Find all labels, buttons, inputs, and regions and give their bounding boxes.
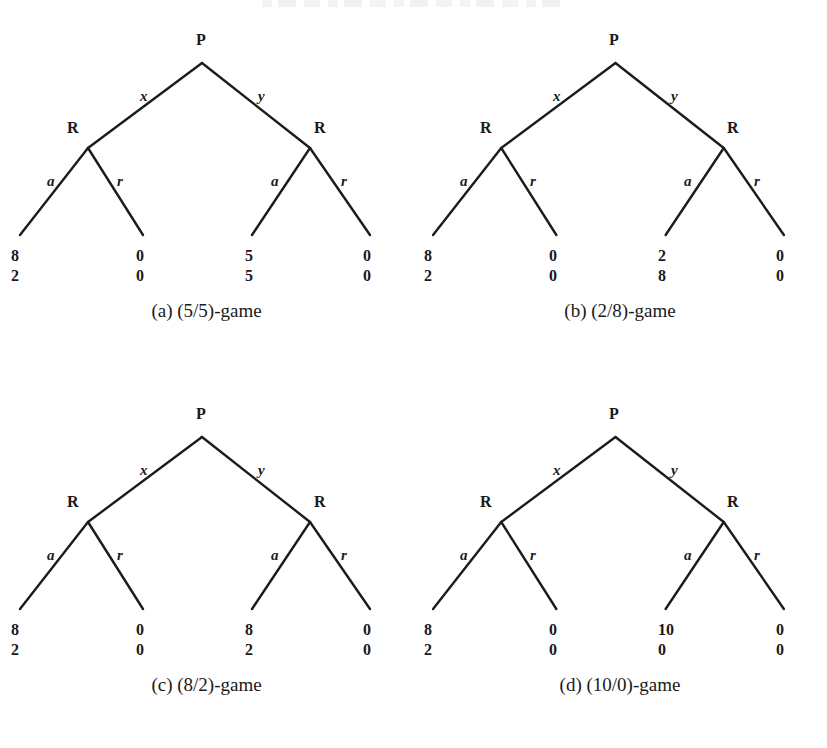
edge-right-reject <box>310 522 370 609</box>
node-label-right-R: R <box>314 120 326 136</box>
payoff-left-reject: 0 0 <box>549 246 557 286</box>
edge-label-right-reject-r: r <box>754 174 760 189</box>
payoff-responder: 0 <box>549 640 557 660</box>
edge-left-reject <box>88 522 143 609</box>
edge-label-right-accept-a: a <box>271 548 279 563</box>
payoff-left-reject: 0 0 <box>136 246 144 286</box>
edge-root-left <box>501 437 615 522</box>
payoff-proposer: 8 <box>424 246 432 266</box>
edge-root-left <box>88 437 202 522</box>
panel-caption: (d) (10/0)-game <box>413 674 827 696</box>
payoff-proposer: 0 <box>136 246 144 266</box>
edge-label-left-accept-a: a <box>47 174 55 189</box>
edge-right-accept <box>666 522 724 609</box>
edge-label-right-reject-r: r <box>754 548 760 563</box>
edge-root-right <box>615 437 723 522</box>
game-tree-diagram: P x y R R a r a r 8 2 0 0 10 0 0 0 <box>413 388 827 678</box>
payoff-right-reject: 0 0 <box>776 620 784 660</box>
node-label-root-P: P <box>609 32 619 48</box>
payoff-proposer: 0 <box>136 620 144 640</box>
payoff-responder: 0 <box>776 266 784 286</box>
panel-caption: (c) (8/2)-game <box>0 674 413 696</box>
edge-root-left <box>88 63 202 148</box>
payoff-proposer: 0 <box>549 246 557 266</box>
node-label-root-P: P <box>196 32 206 48</box>
node-label-root-P: P <box>609 406 619 422</box>
node-label-right-R: R <box>314 494 326 510</box>
payoff-proposer: 8 <box>424 620 432 640</box>
payoff-left-accept: 8 2 <box>424 246 432 286</box>
edge-root-right <box>202 63 310 148</box>
game-tree-panel-b: P x y R R a r a r 8 2 0 0 2 8 0 0 <box>413 0 827 374</box>
edge-label-right-accept-a: a <box>684 548 692 563</box>
edge-left-reject <box>501 522 556 609</box>
payoff-left-accept: 8 2 <box>11 246 19 286</box>
edge-label-left-reject-r: r <box>530 174 536 189</box>
payoff-proposer: 0 <box>776 246 784 266</box>
node-label-left-R: R <box>67 494 79 510</box>
payoff-proposer: 8 <box>11 620 19 640</box>
payoff-responder: 0 <box>658 640 674 660</box>
payoff-proposer: 0 <box>363 620 371 640</box>
edge-label-left-reject-r: r <box>117 174 123 189</box>
edge-label-x: x <box>140 463 148 478</box>
edge-right-reject <box>310 148 370 235</box>
edge-right-reject <box>724 522 784 609</box>
tree-edges-svg <box>413 14 827 304</box>
edge-right-accept <box>252 148 310 235</box>
edge-label-right-reject-r: r <box>341 548 347 563</box>
game-tree-panel-a: P x y R R a r a r 8 2 0 0 5 5 0 0 <box>0 0 413 374</box>
payoff-right-accept: 8 2 <box>245 620 253 660</box>
edge-label-y: y <box>671 463 678 478</box>
edge-label-left-reject-r: r <box>530 548 536 563</box>
tree-edges-svg <box>0 388 413 678</box>
game-tree-diagram: P x y R R a r a r 8 2 0 0 8 2 0 0 <box>0 388 413 678</box>
tree-edges-svg <box>0 14 413 304</box>
payoff-right-accept: 10 0 <box>658 620 674 660</box>
edge-label-x: x <box>553 463 561 478</box>
edge-root-right <box>202 437 310 522</box>
payoff-left-reject: 0 0 <box>136 620 144 660</box>
edge-label-left-accept-a: a <box>460 548 468 563</box>
payoff-responder: 5 <box>245 266 253 286</box>
payoff-responder: 2 <box>424 640 432 660</box>
payoff-responder: 0 <box>549 266 557 286</box>
payoff-responder: 0 <box>363 640 371 660</box>
payoff-responder: 2 <box>11 640 19 660</box>
edge-left-accept <box>20 522 88 609</box>
payoff-proposer: 8 <box>11 246 19 266</box>
edge-left-reject <box>88 148 143 235</box>
panel-caption: (b) (2/8)-game <box>413 300 827 322</box>
payoff-left-accept: 8 2 <box>424 620 432 660</box>
payoff-responder: 8 <box>658 266 666 286</box>
edge-label-left-reject-r: r <box>117 548 123 563</box>
payoff-responder: 0 <box>363 266 371 286</box>
game-tree-panel-d: P x y R R a r a r 8 2 0 0 10 0 0 0 <box>413 374 827 748</box>
payoff-responder: 2 <box>245 640 253 660</box>
edge-left-accept <box>20 148 88 235</box>
game-tree-panel-c: P x y R R a r a r 8 2 0 0 8 2 0 0 <box>0 374 413 748</box>
node-label-right-R: R <box>727 494 739 510</box>
payoff-responder: 2 <box>424 266 432 286</box>
node-label-root-P: P <box>196 406 206 422</box>
payoff-responder: 0 <box>136 266 144 286</box>
payoff-right-reject: 0 0 <box>776 246 784 286</box>
game-tree-diagram: P x y R R a r a r 8 2 0 0 2 8 0 0 <box>413 14 827 304</box>
payoff-proposer: 10 <box>658 620 674 640</box>
payoff-responder: 0 <box>136 640 144 660</box>
edge-left-reject <box>501 148 556 235</box>
payoff-right-reject: 0 0 <box>363 620 371 660</box>
game-tree-figure-grid: P x y R R a r a r 8 2 0 0 5 5 0 0 <box>0 0 827 748</box>
edge-right-reject <box>724 148 784 235</box>
edge-left-accept <box>433 148 501 235</box>
node-label-right-R: R <box>727 120 739 136</box>
node-label-left-R: R <box>480 120 492 136</box>
edge-right-accept <box>252 522 310 609</box>
edge-left-accept <box>433 522 501 609</box>
payoff-right-accept: 2 8 <box>658 246 666 286</box>
payoff-responder: 0 <box>776 640 784 660</box>
edge-label-right-accept-a: a <box>271 174 279 189</box>
payoff-right-reject: 0 0 <box>363 246 371 286</box>
payoff-proposer: 5 <box>245 246 253 266</box>
payoff-right-accept: 5 5 <box>245 246 253 286</box>
